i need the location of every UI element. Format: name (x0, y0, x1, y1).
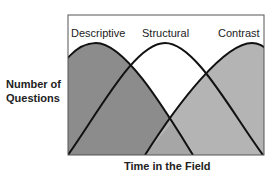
y-label-line1: Number of (6, 77, 61, 91)
y-label-line2: Questions (6, 91, 61, 105)
x-axis-label: Time in the Field (124, 160, 211, 172)
structural-label: Structural (142, 27, 189, 39)
y-axis-label: Number of Questions (6, 77, 61, 105)
descriptive-label: Descriptive (71, 27, 125, 39)
contrast-label: Contrast (218, 27, 260, 39)
